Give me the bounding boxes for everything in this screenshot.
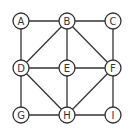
node-label: C [110,16,117,27]
node-label: F [110,63,116,74]
node-c: C [105,13,121,29]
graph-nodes: ABCDEFGHI [13,13,121,123]
node-b: B [59,13,75,29]
edge-b-f [67,21,113,68]
node-label: D [17,63,25,74]
node-f: F [105,60,121,76]
node-i: I [105,107,121,123]
node-label: E [64,63,70,74]
graph-diagram: ABCDEFGHI [0,0,131,131]
edge-d-h [21,68,67,115]
edge-b-d [21,21,67,68]
node-label: B [64,16,71,27]
node-g: G [13,107,29,123]
node-label: G [17,110,25,121]
node-d: D [13,60,29,76]
node-label: A [18,16,25,27]
node-label: I [112,110,115,121]
node-a: A [13,13,29,29]
node-h: H [59,107,75,123]
edge-f-h [67,68,113,115]
node-label: H [63,110,71,121]
node-e: E [59,60,75,76]
